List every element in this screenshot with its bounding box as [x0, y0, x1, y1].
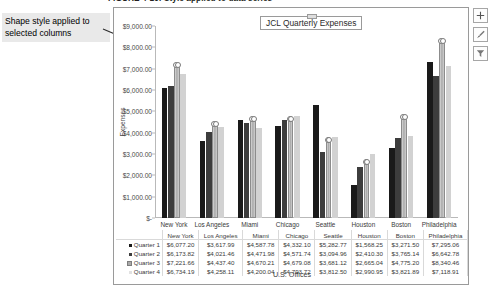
y-axis-tick-label: $9,000.00	[123, 23, 152, 30]
figure-caption: FIGURE 4-16: Style applied to data serie…	[108, 0, 368, 3]
selection-handle-icon[interactable]	[251, 116, 257, 122]
bar-quarter-2[interactable]	[357, 167, 363, 218]
table-column-header: Houston	[351, 230, 387, 240]
plot-area: Expenses $9,000.00$8,000.00$7,000.00$6,0…	[155, 26, 458, 218]
table-cell: $4,471.98	[243, 249, 279, 258]
bar-quarter-1[interactable]	[389, 148, 395, 218]
chart-title-grip	[307, 14, 317, 19]
y-axis-tick-label: $4,000.00	[123, 129, 152, 136]
table-cell: $6,642.78	[423, 249, 467, 258]
bar-quarter-1[interactable]	[275, 126, 281, 218]
bar-quarter-3[interactable]	[250, 118, 256, 218]
bar-quarter-2[interactable]	[320, 152, 326, 218]
bar-quarter-3[interactable]	[401, 116, 407, 218]
bar-quarter-2[interactable]	[433, 76, 439, 218]
bar-quarter-3[interactable]	[364, 161, 370, 218]
table-row: Quarter 4$6,734.19$4,258.11$4,200.04$4,7…	[116, 267, 468, 276]
table-cell: $2,410.30	[351, 249, 387, 258]
selection-handle-icon[interactable]	[175, 62, 181, 68]
bar-quarter-4[interactable]	[332, 137, 338, 218]
bar-quarter-1[interactable]	[238, 120, 244, 218]
bar-quarter-2[interactable]	[395, 138, 401, 218]
data-table: New YorkLos AngelesMiamiChicagoSeattleHo…	[116, 230, 468, 276]
bar-quarter-1[interactable]	[162, 88, 168, 218]
table-cell: $4,793.72	[279, 267, 315, 276]
bar-quarter-1[interactable]	[427, 62, 433, 218]
chart-side-toolbar[interactable]	[473, 8, 493, 65]
table-cell: $2,990.95	[351, 267, 387, 276]
chart-styles-brush-icon[interactable]	[473, 27, 488, 42]
selection-handle-icon[interactable]	[402, 114, 408, 120]
bar-quarter-2[interactable]	[282, 120, 288, 218]
figure-caption-number: FIGURE 4-16:	[108, 0, 162, 3]
bar-quarter-4[interactable]	[294, 116, 300, 218]
table-cell: $4,775.20	[387, 258, 423, 267]
bar-group	[269, 26, 307, 218]
bar-quarter-2[interactable]	[244, 123, 250, 218]
chart-container[interactable]: JCL Quarterly Expenses Expenses $9,000.0…	[113, 7, 469, 285]
bar-group	[382, 26, 420, 218]
x-axis-category-label: Chicago	[269, 221, 307, 228]
table-column-header: Boston	[387, 230, 423, 240]
bar-quarter-4[interactable]	[180, 74, 186, 218]
table-cell: $4,587.78	[243, 240, 279, 250]
table-cell: $4,437.40	[199, 258, 243, 267]
table-row-header: Quarter 4	[116, 267, 163, 276]
table-cell: $3,617.99	[199, 240, 243, 250]
y-axis-tick-label: $8,000.00	[123, 44, 152, 51]
bar-quarter-3[interactable]	[212, 123, 218, 218]
chart-filters-funnel-icon[interactable]	[473, 46, 488, 61]
table-header-row: New YorkLos AngelesMiamiChicagoSeattleHo…	[116, 230, 468, 240]
bar-quarter-3[interactable]	[439, 40, 445, 218]
table-cell: $8,340.46	[423, 258, 467, 267]
x-axis-category-label: Seattle	[307, 221, 345, 228]
bar-quarter-4[interactable]	[256, 128, 262, 218]
table-cell: $4,332.10	[279, 240, 315, 250]
bar-quarter-1[interactable]	[200, 141, 206, 218]
table-body: Quarter 1$6,077.20$3,617.99$4,587.78$4,3…	[116, 240, 468, 277]
bar-quarter-4[interactable]	[218, 127, 224, 218]
table-cell: $4,571.74	[279, 249, 315, 258]
annotation-callout: Shape style applied to selected columns	[2, 13, 110, 42]
legend-swatch-icon	[129, 271, 132, 274]
table-row: Quarter 1$6,077.20$3,617.99$4,587.78$4,3…	[116, 240, 468, 250]
chart-elements-button[interactable]	[473, 8, 488, 23]
bar-group	[344, 26, 382, 218]
table-column-header: New York	[163, 230, 199, 240]
y-axis-tick-label: $1,000.00	[123, 193, 152, 200]
y-axis-tick-label: $5,000.00	[123, 108, 152, 115]
x-axis-category-label: New York	[155, 221, 193, 228]
x-axis-category-label: Miami	[231, 221, 269, 228]
table-cell: $7,118.91	[423, 267, 467, 276]
bar-quarter-1[interactable]	[351, 185, 357, 218]
bar-group	[231, 26, 269, 218]
y-axis-tick-label: $2,000.00	[123, 172, 152, 179]
table-cell: $4,670.21	[243, 258, 279, 267]
bar-quarter-4[interactable]	[408, 136, 414, 218]
bar-group	[155, 26, 193, 218]
selection-handle-icon[interactable]	[440, 38, 446, 44]
bar-quarter-4[interactable]	[446, 66, 452, 218]
y-axis-tick-label: $6,000.00	[123, 87, 152, 94]
bar-quarter-3[interactable]	[174, 64, 180, 218]
bar-group	[193, 26, 231, 218]
table-row-header: Quarter 3	[116, 258, 163, 267]
bar-group	[307, 26, 345, 218]
bar-quarter-2[interactable]	[206, 132, 212, 218]
table-cell: $6,173.82	[163, 249, 199, 258]
table-column-header: Chicago	[279, 230, 315, 240]
table-row-header: Quarter 1	[116, 240, 163, 250]
bar-quarter-1[interactable]	[313, 105, 319, 218]
table-row: Quarter 2$6,173.82$4,021.46$4,471.98$4,5…	[116, 249, 468, 258]
table-corner-cell	[116, 230, 163, 240]
x-axis-category-label: Houston	[344, 221, 382, 228]
table-cell: $7,221.66	[163, 258, 199, 267]
table-cell: $3,821.89	[387, 267, 423, 276]
bar-quarter-3[interactable]	[288, 118, 294, 218]
table-cell: $1,568.25	[351, 240, 387, 250]
table-cell: $4,200.04	[243, 267, 279, 276]
table-cell: $7,295.06	[423, 240, 467, 250]
bar-quarter-4[interactable]	[370, 154, 376, 218]
bar-quarter-3[interactable]	[326, 139, 332, 218]
bar-quarter-2[interactable]	[168, 86, 174, 218]
